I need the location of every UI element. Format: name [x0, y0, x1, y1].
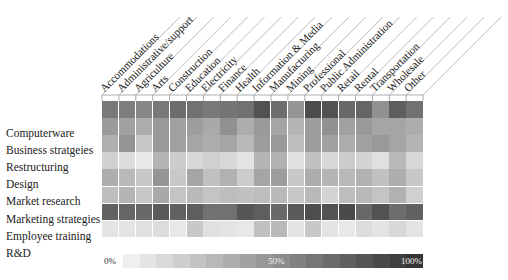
heatmap-cell: 46: [254, 118, 271, 136]
heatmap-cell: 42: [356, 135, 373, 153]
heatmap-cell: 14: [406, 152, 423, 170]
legend-step: [156, 254, 173, 268]
heatmap-chart: ComputerwareBusiness stratgeiesRestructu…: [0, 0, 508, 280]
heatmap-cell: 40: [271, 118, 288, 136]
heatmap-cell: 22: [170, 169, 187, 187]
heatmap-cell: 22: [406, 169, 423, 187]
heatmap-cell: 30: [237, 135, 254, 153]
heatmap-cell: 16: [322, 187, 339, 205]
heatmap-cell: 8: [406, 221, 423, 239]
heatmap-cell: 32: [254, 152, 271, 170]
heatmap-cell: 6: [136, 152, 153, 170]
heatmap-cell: 40: [220, 135, 237, 153]
heatmap-cell: 14: [389, 221, 406, 239]
legend-step: [140, 254, 157, 268]
heatmap-cell: 34: [220, 169, 237, 187]
heatmap-cell: 14: [220, 152, 237, 170]
heatmap-cell: 40: [389, 118, 406, 136]
heatmap-cell: 34: [389, 187, 406, 205]
legend-step: [323, 254, 340, 268]
heatmap-cell: 46: [271, 135, 288, 153]
heatmap-cell: 22: [288, 187, 305, 205]
heatmap-cell: 46: [372, 135, 389, 153]
heatmap-cell: 32: [406, 135, 423, 153]
row-label: R&D: [6, 245, 31, 262]
heatmap-cell: 44: [187, 118, 204, 136]
heatmap-cell: 62: [203, 101, 220, 119]
heatmap-cell: 64: [220, 101, 237, 119]
heatmap-cell: 66: [406, 101, 423, 119]
heatmap-cell: 8: [237, 152, 254, 170]
heatmap-cell: 42: [322, 135, 339, 153]
legend-step: [340, 254, 357, 268]
heatmap-cell: 40: [389, 135, 406, 153]
heatmap-cell: 76: [389, 101, 406, 119]
heatmap-cell: 66: [220, 204, 237, 222]
heatmap-cell: 62: [102, 101, 119, 119]
heatmap-cell: 22: [136, 187, 153, 205]
legend-step: [190, 254, 207, 268]
heatmap-cell: 26: [305, 152, 322, 170]
heatmap-cell: 66: [203, 204, 220, 222]
heatmap-cell: 84: [305, 204, 322, 222]
heatmap-cell: 12: [356, 221, 373, 239]
heatmap-cell: 48: [153, 169, 170, 187]
heatmap-cell: 42: [170, 118, 187, 136]
heatmap-cell: 12: [153, 221, 170, 239]
legend-label: 50%: [268, 256, 285, 266]
heatmap-cell: 20: [339, 152, 356, 170]
heatmap-cell: 18: [406, 187, 423, 205]
heatmap-cell: 36: [305, 169, 322, 187]
heatmap-cell: 46: [153, 118, 170, 136]
heatmap-cell: 60: [119, 101, 136, 119]
heatmap-cell: 30: [305, 187, 322, 205]
heatmap-cell: 20: [237, 169, 254, 187]
legend-step: [223, 254, 240, 268]
heatmap-cell: 32: [119, 187, 136, 205]
heatmap-cell: 10: [203, 221, 220, 239]
heatmap-cell: 8: [220, 221, 237, 239]
heatmap-cell: 8: [102, 221, 119, 239]
heatmap-cell: 26: [254, 221, 271, 239]
heatmap-cell: 32: [153, 152, 170, 170]
heatmap-cell: 6: [237, 221, 254, 239]
heatmap-cell: 45: [102, 118, 119, 136]
heatmap-cell: 86: [339, 204, 356, 222]
heatmap-cell: 82: [372, 204, 389, 222]
heatmap-cell: 28: [339, 187, 356, 205]
heatmap-cell: 70: [136, 204, 153, 222]
heatmap-cell: 44: [254, 135, 271, 153]
heatmap-cell: 36: [136, 118, 153, 136]
heatmap-cell: 44: [271, 169, 288, 187]
heatmap-cell: 72: [356, 101, 373, 119]
heatmap-cell: 10: [372, 152, 389, 170]
heatmap-cell: 78: [153, 204, 170, 222]
heatmap-cell: 38: [203, 118, 220, 136]
heatmap-cell: 28: [220, 187, 237, 205]
heatmap-cell: 42: [339, 118, 356, 136]
row-label: Restructuring: [6, 159, 69, 176]
heatmap-cell: 70: [271, 204, 288, 222]
heatmap-cell: 24: [170, 187, 187, 205]
heatmap-cell: 24: [372, 187, 389, 205]
heatmap-cell: 24: [203, 187, 220, 205]
heatmap-cell: 62: [153, 101, 170, 119]
heatmap-cell: 28: [102, 187, 119, 205]
legend-label: 100%: [401, 256, 422, 266]
heatmap-cell: 6: [339, 221, 356, 239]
heatmap-cell: 44: [305, 118, 322, 136]
heatmap-cell: 82: [322, 204, 339, 222]
heatmap-cell: 30: [389, 152, 406, 170]
heatmap-cell: 74: [406, 204, 423, 222]
row-label: Design: [6, 176, 39, 193]
heatmap-cell: 76: [187, 204, 204, 222]
heatmap-cell: 68: [389, 204, 406, 222]
heatmap-cell: 70: [356, 204, 373, 222]
legend-step: [123, 254, 140, 268]
heatmap-cell: 68: [271, 101, 288, 119]
heatmap-cell: 8: [119, 221, 136, 239]
legend-step: [173, 254, 190, 268]
heatmap-cell: 48: [288, 101, 305, 119]
heatmap-cell: 82: [254, 101, 271, 119]
heatmap-cell: 50: [322, 118, 339, 136]
